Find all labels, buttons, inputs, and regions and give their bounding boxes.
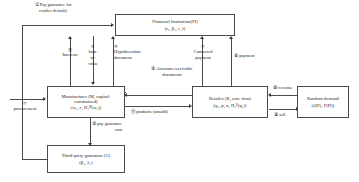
flow-7-label: ⑦ procurement xyxy=(6,101,44,112)
node-financial-institution-title: Financial Institution(FI) xyxy=(150,19,200,24)
flow-6-label: ⑥ payment xyxy=(234,53,255,59)
node-third-party-guarantor: Third-party guarantor (G) (β₁, λ₁) xyxy=(47,145,125,173)
flow-4-segment xyxy=(127,95,192,96)
flow-9-segment xyxy=(90,118,91,145)
flow-1-segment-bottom xyxy=(22,159,47,160)
flow-2-label: ② loan- to- value xyxy=(78,44,108,66)
node-random-demand-params: (f(D), F(D)) xyxy=(310,103,337,108)
flow-6-arrowhead xyxy=(229,36,233,39)
node-random-demand: Random demand (f(D), F(D)) xyxy=(297,86,349,118)
flow-11-segment xyxy=(125,106,190,107)
node-third-party-guarantor-title: Third-party guarantor (G) xyxy=(60,153,113,158)
flow-8-label: ⑧ sell xyxy=(274,112,285,118)
flow-1-segment-vertical xyxy=(22,25,23,159)
flow-5-label: ⑤ Connected payment xyxy=(177,44,229,61)
node-financial-institution-params: (r₁, β₁, r_f) xyxy=(163,26,188,31)
flow-5-arrowhead xyxy=(200,36,204,39)
node-retailer-params: (q₁, p, α, Π₁ᴿ(q₁)) xyxy=(211,103,248,108)
diagram-canvas: Financial Institution(FI) (r₁, β₁, r_f) … xyxy=(0,0,359,182)
node-third-party-guarantor-params: (β₁, λ₁) xyxy=(77,160,95,165)
flow-10-label: ⑩ revenue xyxy=(273,85,292,91)
flow-10-arrowhead xyxy=(268,93,271,97)
flow-3-label: ③ Hypothecation document xyxy=(114,44,160,61)
flow-3-arrowhead xyxy=(111,36,115,39)
flow-10-segment xyxy=(271,95,297,96)
node-random-demand-title: Random demand xyxy=(305,96,341,101)
flow-7-segment xyxy=(10,99,44,100)
flow-12-arrowhead xyxy=(68,36,72,39)
node-manufacturer: Manufacturer (M, capital-constrained) (w… xyxy=(47,86,125,118)
flow-6-segment xyxy=(231,39,232,86)
flow-9-label: ⑨ pay guarantee cost xyxy=(92,121,122,132)
flow-1-label: ① Pay guarantee for retailer default) xyxy=(13,2,93,13)
node-retailer: Retailer (R, core firm) (q₁, p, α, Π₁ᴿ(q… xyxy=(192,86,268,118)
node-retailer-title: Retailer (R, core firm) xyxy=(207,96,253,101)
flow-4-label: ④ Accounts receivable documents xyxy=(131,66,213,77)
node-manufacturer-title: Manufacturer (M, capital-constrained) xyxy=(48,94,124,104)
flow-2-arrowhead xyxy=(91,82,95,85)
flow-1-arrowhead xyxy=(111,23,114,27)
flow-11-label: ⑪ products (unsold) xyxy=(131,109,168,115)
node-financial-institution: Financial Institution(FI) (r₁, β₁, r_f) xyxy=(115,14,235,36)
node-manufacturer-params: (w₁, c, Π₁ᴹ(w₁)) xyxy=(69,105,104,110)
flow-1-segment-top xyxy=(22,25,112,26)
flow-8-segment xyxy=(269,109,297,110)
